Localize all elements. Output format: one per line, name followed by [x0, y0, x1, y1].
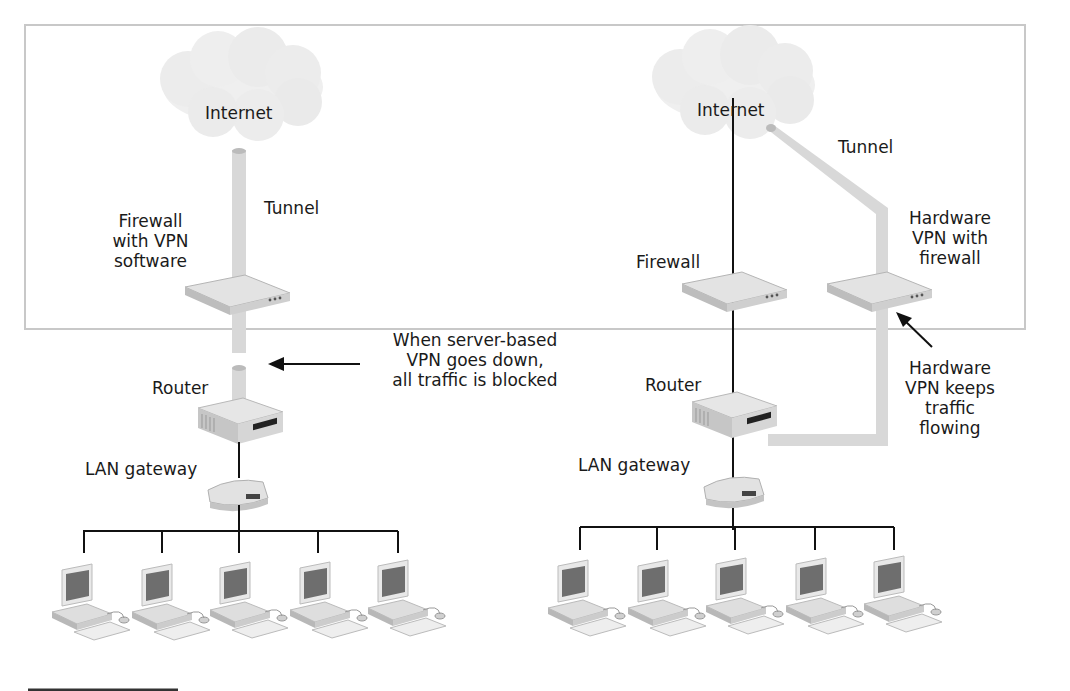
computer-icon [132, 564, 210, 640]
hardware-vpn-label: Hardware VPN with firewall [900, 208, 1000, 268]
computer-icon [210, 562, 288, 638]
right-router-icon [692, 392, 777, 438]
left-callout-text: When server-based VPN goes down, all tra… [365, 330, 585, 390]
left-tunnel-label: Tunnel [264, 198, 319, 218]
left-router-label: Router [152, 378, 208, 398]
right-internet-label: Internet [697, 100, 765, 120]
computer-icon [628, 560, 706, 636]
computer-icon [548, 560, 626, 636]
left-firewall-label: Firewall with VPN software [103, 211, 198, 271]
computer-icon [786, 558, 864, 634]
right-lan-gateway-label: LAN gateway [578, 455, 690, 475]
right-firewall-label: Firewall [636, 252, 700, 272]
left-internet-cloud-icon [160, 27, 323, 141]
left-firewall-icon [185, 275, 290, 315]
computer-icon [52, 564, 130, 640]
hardware-vpn-icon [827, 272, 932, 312]
right-callout-text: Hardware VPN keeps traffic flowing [895, 358, 1005, 438]
left-router-icon [198, 398, 283, 444]
right-tunnel-label: Tunnel [838, 137, 893, 157]
right-firewall-icon [682, 272, 787, 312]
computer-icon [706, 558, 784, 634]
computer-icon [368, 560, 446, 636]
right-lan-gateway-icon [704, 477, 764, 508]
right-router-label: Router [645, 375, 701, 395]
computer-icon [864, 556, 942, 632]
left-lan-gateway-label: LAN gateway [85, 459, 197, 479]
computer-icon [290, 562, 368, 638]
left-callout-arrow-icon [268, 357, 284, 371]
left-internet-label: Internet [205, 103, 273, 123]
